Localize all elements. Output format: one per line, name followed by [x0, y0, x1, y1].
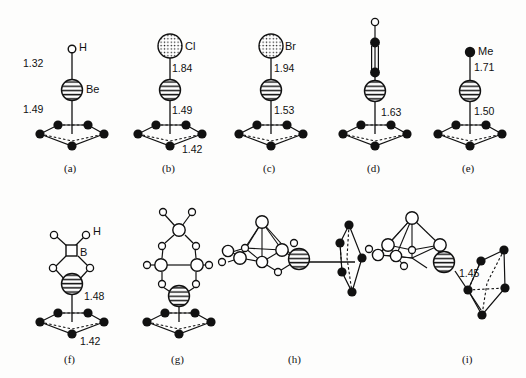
distance-be-cl-b: 1.84 [172, 62, 193, 74]
be-atom-b [160, 80, 181, 101]
label-br-c: Br [285, 40, 296, 52]
h-atom-i-2 [401, 263, 408, 270]
br-atom-c [259, 34, 283, 58]
boron-atom-i-3 [434, 239, 446, 251]
boron-atom-h-4 [222, 245, 233, 256]
label-b-f: B [80, 246, 87, 258]
h-atom-g-5 [144, 262, 151, 269]
canvas-background [0, 0, 526, 378]
carbon-atom-d-inner [370, 68, 380, 78]
boron-atom-g-2 [155, 259, 167, 271]
h-atom-a [68, 45, 76, 53]
be-atom-e [460, 81, 481, 102]
h-atom-d [371, 18, 378, 25]
distance-be-ring-e: 1.50 [474, 105, 495, 117]
distance-be-ring-i: 1.45 [459, 267, 480, 279]
boron-atom-g-1 [173, 224, 185, 236]
be-atom-a [62, 80, 83, 101]
h-atom-f-1 [50, 231, 57, 238]
h-atom-g-8 [193, 281, 200, 288]
panel-label-g: (g) [171, 353, 184, 366]
distance-be-ring-f: 1.48 [84, 290, 105, 302]
distance-be-br-c: 1.94 [274, 62, 295, 74]
panel-label-e: (e) [462, 162, 475, 175]
h-atom-g-2 [189, 209, 196, 216]
me-atom-e [465, 47, 475, 57]
boron-atom-i-2 [382, 239, 394, 251]
distance-be-me-e: 1.71 [474, 61, 495, 73]
h-atom-f-4 [86, 264, 93, 271]
boron-atom-i-4 [372, 249, 383, 260]
distance-be-ring-b: 1.49 [172, 104, 193, 116]
distance-be-ring-c: 1.53 [274, 104, 295, 116]
panel-label-c: (c) [263, 162, 276, 175]
panel-label-i: (i) [462, 353, 473, 366]
label-h-a: H [79, 41, 87, 53]
carbon-atom-d-outer [370, 38, 380, 48]
h-atom-g-6 [206, 262, 213, 269]
distance-be-ring-a: 1.49 [23, 103, 44, 115]
h-atom-g-4 [193, 243, 200, 250]
be-atom-c [261, 80, 282, 101]
boron-atom-f [66, 245, 77, 256]
be-atom-f [62, 274, 83, 295]
panel-label-f: (f) [64, 353, 75, 366]
distance-be-h-a: 1.32 [23, 57, 44, 69]
be-atom-d [365, 81, 386, 102]
label-cl-b: Cl [185, 40, 195, 52]
h-atom-h-1 [242, 245, 249, 252]
boron-atom-h-3 [276, 244, 288, 256]
boron-atom-i-5 [390, 250, 401, 261]
h-atom-g-7 [159, 281, 166, 288]
boron-atom-h-2 [234, 252, 246, 264]
h-atom-i-3 [366, 246, 373, 253]
panel-label-b: (b) [162, 162, 175, 175]
h-atom-f-2 [82, 231, 89, 238]
h-atom-h-3 [219, 259, 226, 266]
boron-atom-h-5 [256, 256, 267, 267]
distance-be-ring-d: 1.63 [381, 106, 402, 118]
label-h-f: H [93, 225, 101, 237]
structures-diagram: H Be 1.32 1.49 (a) Cl 1.84 1.49 1.42 (b) [0, 0, 526, 378]
cl-atom-b [158, 34, 182, 58]
h-atom-i-1 [409, 247, 416, 254]
panel-label-d: (d) [367, 162, 380, 175]
panel-label-a: (a) [64, 162, 77, 175]
h-atom-f-3 [49, 264, 56, 271]
be-atom-i [434, 252, 455, 273]
figure-container: H Be 1.32 1.49 (a) Cl 1.84 1.49 1.42 (b) [0, 0, 526, 378]
boron-atom-i-1 [406, 212, 418, 224]
panel-label-h: (h) [288, 353, 301, 366]
be-atom-g [169, 286, 190, 307]
label-be-a: Be [86, 83, 99, 95]
boron-atom-h-1 [256, 216, 268, 228]
distance-cc-f: 1.42 [80, 335, 101, 347]
h-atom-g-1 [160, 209, 167, 216]
distance-cc-b: 1.42 [182, 143, 203, 155]
h-atom-g-3 [159, 243, 166, 250]
label-me-e: Me [478, 45, 493, 57]
figure-caption [0, 369, 526, 378]
boron-atom-g-3 [191, 259, 203, 271]
h-atom-h-4 [291, 240, 298, 247]
be-atom-h [289, 249, 310, 270]
h-atom-h-2 [275, 269, 282, 276]
